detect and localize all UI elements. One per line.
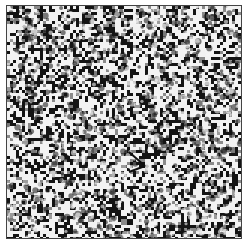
noise-texture — [7, 6, 241, 238]
image-frame — [6, 5, 242, 239]
